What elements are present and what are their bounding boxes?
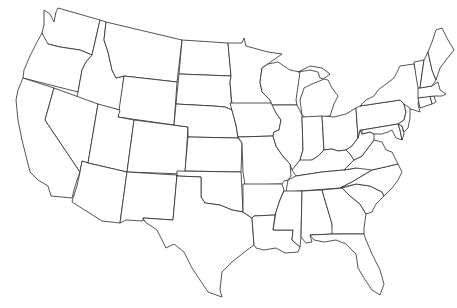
state-arizona[interactable] <box>72 161 127 223</box>
state-florida[interactable] <box>310 234 384 295</box>
state-colorado[interactable] <box>127 120 188 174</box>
us-states-outline-map <box>0 0 457 308</box>
state-kansas[interactable] <box>185 137 242 172</box>
state-michigan[interactable] <box>298 66 338 118</box>
state-wyoming[interactable] <box>118 76 177 125</box>
state-north-dakota[interactable] <box>179 40 231 76</box>
state-new-mexico[interactable] <box>120 172 177 223</box>
state-montana[interactable] <box>104 22 182 82</box>
